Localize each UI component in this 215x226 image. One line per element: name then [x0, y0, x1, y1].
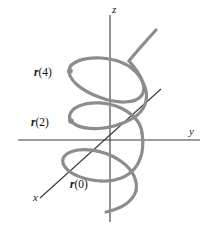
helix-lead-in: [129, 30, 156, 61]
label-r-of-2-argument: (2): [35, 116, 48, 128]
helix-turn-top: [69, 58, 144, 102]
label-r-of-2: r(2): [31, 117, 49, 129]
z-axis-label: z: [112, 4, 116, 15]
label-r-of-4: r(4): [34, 67, 52, 79]
y-axis-label: y: [189, 126, 194, 137]
x-axis-label: x: [33, 192, 38, 203]
helix-marker-r4: [67, 68, 73, 74]
helix-marker-r2: [68, 118, 74, 124]
helix-figure: z y x r(0) r(2) r(4): [0, 0, 215, 226]
label-r-of-0: r(0): [70, 179, 88, 191]
label-r-of-4-argument: (4): [38, 66, 51, 78]
label-r-of-0-argument: (0): [74, 178, 87, 190]
